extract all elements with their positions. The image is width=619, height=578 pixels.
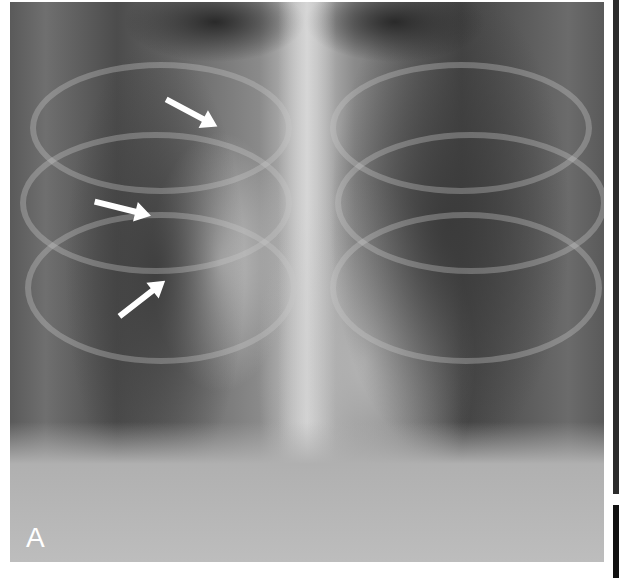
adjacent-panel-edge — [613, 0, 619, 494]
chest-xray-panel-a: A — [10, 2, 604, 562]
panel-label: A — [26, 522, 45, 554]
diaphragm-region — [10, 422, 604, 562]
rib-shadow — [330, 212, 602, 364]
adjacent-panel-edge — [613, 505, 619, 578]
